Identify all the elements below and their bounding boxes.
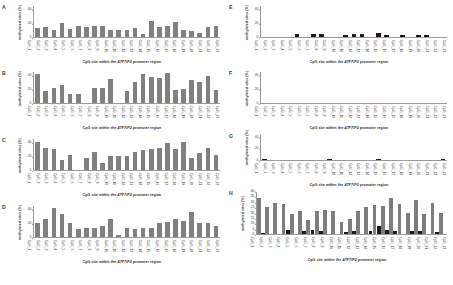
bar-group: [90, 72, 98, 103]
bar-group: [42, 6, 50, 37]
bar: [149, 228, 154, 238]
bar-group: [66, 6, 74, 37]
x-axis-title-prefix-b: CpG site within the: [83, 126, 118, 130]
x-tick-label: CpG_15: [143, 105, 152, 127]
x-tick-labels-a: CpG_1CpG_2CpG_3CpG_4CpG_5CpG_6CpG_7CpG_8…: [24, 39, 220, 61]
bar: [149, 149, 154, 171]
x-tick-label: CpG_2: [260, 39, 269, 61]
x-tick-label: CpG_14: [360, 236, 369, 258]
bar-group: [82, 139, 90, 170]
panel-letter-g: G: [229, 133, 233, 139]
x-tick-label: CpG_1: [24, 105, 33, 127]
x-tick-label: CpG_17: [387, 39, 396, 61]
x-tick-label: CpG_20: [413, 105, 422, 127]
bar-group: [334, 72, 342, 103]
x-tick-label: CpG_19: [177, 172, 186, 194]
x-axis-line-h: [256, 234, 447, 235]
bar-group: [212, 139, 220, 170]
bar: [165, 222, 170, 237]
x-tick-label: CpG_19: [404, 105, 413, 127]
x-tick-label: CpG_14: [135, 39, 144, 61]
bar: [52, 30, 57, 37]
x-tick-label: CpG_18: [169, 239, 178, 261]
x-tick-label: CpG_16: [379, 39, 388, 61]
x-tick-label: CpG_10: [101, 39, 110, 61]
bars-e: [261, 6, 447, 37]
x-axis-title-prefix-a: CpG site within the: [83, 60, 118, 64]
x-tick-label: CpG_14: [362, 162, 371, 184]
bar-group: [315, 192, 323, 234]
bar: [68, 155, 73, 170]
x-tick-label: CpG_15: [370, 39, 379, 61]
bar-group: [196, 72, 204, 103]
bar: [273, 203, 277, 235]
bar-group: [407, 6, 415, 37]
panel-d: D methylated sites (%) 02040 CpG_1CpG_2C…: [2, 204, 224, 266]
bar-group: [431, 192, 439, 234]
x-tick-label: CpG_4: [277, 162, 286, 184]
x-tick-label: CpG_16: [152, 105, 161, 127]
x-tick-label: CpG_22: [203, 172, 212, 194]
bar-group: [90, 206, 98, 237]
bar: [165, 26, 170, 37]
bar-group: [58, 6, 66, 37]
bar-group: [390, 135, 398, 160]
bar: [424, 35, 429, 38]
bar-group: [107, 206, 115, 237]
bars-f: [261, 72, 447, 103]
bar-group: [204, 72, 212, 103]
x-tick-label: CpG_2: [256, 236, 265, 258]
bar: [60, 85, 65, 104]
x-tick-label: CpG_22: [203, 105, 212, 127]
bar: [165, 143, 170, 171]
bar-group: [407, 135, 415, 160]
x-tick-label: CpG_11: [109, 39, 118, 61]
bar: [206, 148, 211, 170]
bar-group: [366, 6, 374, 37]
bars-g: [261, 135, 447, 160]
x-tick-label: CpG_9: [319, 105, 328, 127]
x-tick-label: CpG_5: [58, 239, 67, 261]
x-tick-label: CpG_5: [282, 236, 291, 258]
bar: [206, 223, 211, 237]
bar-group: [290, 192, 298, 234]
x-tick-label: CpG_3: [268, 162, 277, 184]
bar-group: [180, 139, 188, 170]
bar: [376, 33, 381, 38]
x-tick-label: CpG_18: [396, 105, 405, 127]
x-tick-label: CpG_7: [299, 236, 308, 258]
x-tick-label: CpG_18: [169, 105, 178, 127]
bar-group: [285, 135, 293, 160]
x-tick-label: CpG_9: [319, 162, 328, 184]
bar-group: [58, 206, 66, 237]
x-tick-label: CpG_1: [251, 105, 260, 127]
x-tick-label: CpG_17: [386, 236, 395, 258]
x-tick-label: CpG_14: [135, 105, 144, 127]
x-tick-label: CpG_2: [260, 105, 269, 127]
bar: [343, 35, 348, 38]
x-tick-label: CpG_22: [203, 39, 212, 61]
bar: [441, 159, 446, 161]
bar-group: [180, 6, 188, 37]
bar: [400, 35, 405, 37]
x-tick-label: CpG_6: [67, 239, 76, 261]
x-tick-label: CpG_21: [421, 162, 430, 184]
x-tick-label: CpG_17: [160, 172, 169, 194]
bar: [206, 76, 211, 104]
x-tick-label: CpG_17: [387, 105, 396, 127]
x-tick-labels-g: CpG_1CpG_2CpG_3CpG_4CpG_5CpG_6CpG_7CpG_8…: [251, 162, 447, 184]
gene-name-g: ATF7IP2: [344, 183, 358, 187]
bar: [181, 89, 186, 103]
bar: [149, 77, 154, 104]
bar-group: [98, 6, 106, 37]
bar: [181, 221, 186, 238]
x-tick-label: CpG_15: [369, 236, 378, 258]
bar-group: [398, 135, 406, 160]
bar-group: [306, 192, 314, 234]
panel-f: F methylated sites (%) 02040 CpG_1CpG_2C…: [229, 70, 451, 132]
bar-group: [374, 72, 382, 103]
panel-letter-h: H: [229, 190, 233, 196]
x-axis-title-a: CpG site within the ATF7IP2 promoter reg…: [24, 60, 220, 64]
bar-group: [309, 72, 317, 103]
bar-group: [325, 135, 333, 160]
